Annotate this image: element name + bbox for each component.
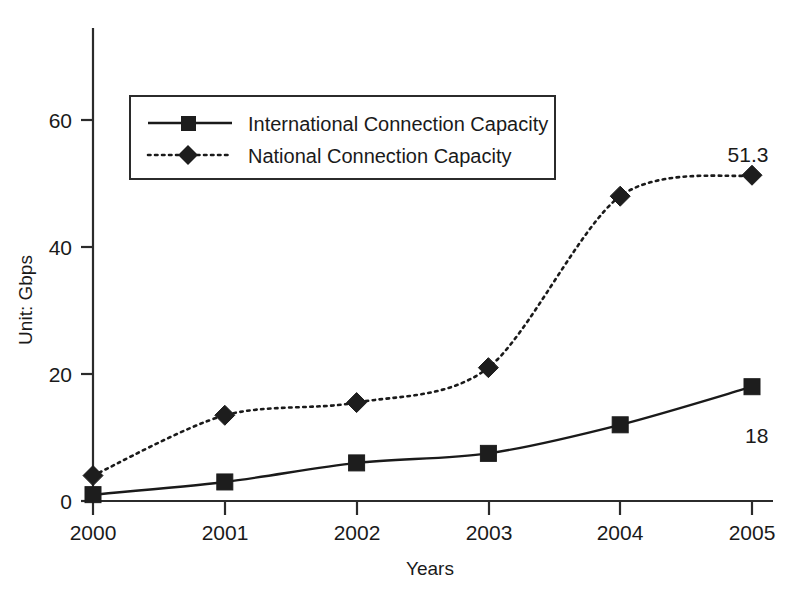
data-label-national-2005: 51.3: [728, 143, 769, 166]
data-point-marker: [85, 487, 101, 503]
data-point-marker: [217, 474, 233, 490]
y-tick-label-60: 60: [49, 109, 72, 132]
y-axis-title: Unit: Gbps: [15, 255, 36, 345]
data-point-marker: [215, 405, 235, 425]
x-tick-label-2000: 2000: [70, 521, 117, 544]
data-point-marker: [347, 393, 367, 413]
national-markers: [83, 165, 762, 485]
chart-legend: International Connection Capacity Nation…: [130, 96, 555, 179]
chart-page: 60 40 20 0 Unit: Gbps 2000 2001 2002 200…: [0, 0, 801, 590]
national-line: [93, 175, 752, 475]
series-national: [83, 165, 762, 485]
data-point-marker: [612, 417, 628, 433]
international-line: [93, 387, 752, 495]
series-international: [85, 379, 760, 503]
y-tick-label-0: 0: [60, 490, 72, 513]
data-point-marker: [83, 466, 103, 486]
legend-square-marker-icon: [181, 116, 196, 131]
data-point-marker: [349, 455, 365, 471]
data-point-marker: [742, 165, 762, 185]
legend-label-national: National Connection Capacity: [248, 145, 512, 167]
line-chart: 60 40 20 0 Unit: Gbps 2000 2001 2002 200…: [0, 0, 801, 590]
x-tick-label-2004: 2004: [597, 521, 644, 544]
international-markers: [85, 379, 760, 503]
x-tick-label-2001: 2001: [202, 521, 249, 544]
x-tick-label-2003: 2003: [466, 521, 513, 544]
data-label-international-2005: 18: [745, 424, 768, 447]
x-tick-label-2002: 2002: [334, 521, 381, 544]
x-tick-label-2005: 2005: [729, 521, 776, 544]
y-tick-label-40: 40: [49, 236, 72, 259]
x-axis-title: Years: [406, 558, 454, 579]
y-tick-label-20: 20: [49, 363, 72, 386]
data-point-marker: [744, 379, 760, 395]
legend-label-international: International Connection Capacity: [248, 113, 548, 135]
data-point-marker: [480, 445, 496, 461]
